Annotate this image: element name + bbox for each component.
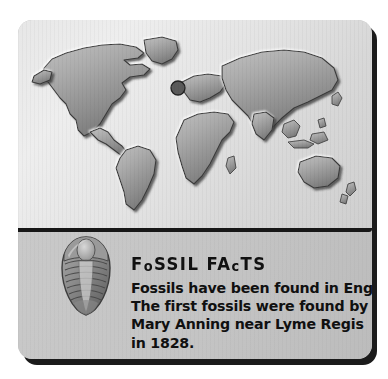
fact-line-3: Mary Anning near Lyme Regis [131,315,371,333]
region-southeast-asia [282,120,300,138]
region-india [252,112,274,140]
fossil-facts-card: FoSSIL FAcTS Fossils have been found in … [18,20,372,359]
continent-africa [176,112,234,184]
heading-part-0: F [131,254,144,274]
continent-south-america [116,146,156,210]
continent-north-america [42,44,150,136]
fact-line-2: The first fossils were found by [131,297,371,315]
world-map-panel [18,20,372,229]
region-philippines [318,118,326,128]
fact-line-4: in 1828. [131,334,371,352]
fact-heading: FoSSIL FAcTS [131,256,371,273]
region-indonesia [288,140,314,148]
region-greenland [144,37,178,64]
world-map-image [26,28,364,221]
continent-australia [298,156,340,188]
trilobite-fossil [56,233,116,319]
fact-text-block: FoSSIL FAcTS Fossils have been found in … [131,256,371,352]
heading-part-4: FA [206,254,231,274]
region-central-america [90,128,128,156]
heading-part-5: c [231,258,240,274]
region-madagascar [226,156,236,174]
region-new-zealand-south [340,194,348,204]
heading-part-6: TS [241,254,267,274]
region-japan [332,92,342,106]
heading-part-2: SSIL [154,254,199,274]
continent-europe [182,74,226,102]
fact-line-1: Fossils have been found in England. [131,279,371,297]
region-new-zealand [346,182,356,196]
region-borneo [310,132,328,144]
trilobite-fossil-image [56,233,116,319]
heading-part-1: o [144,258,154,274]
england-location-marker [171,81,185,95]
